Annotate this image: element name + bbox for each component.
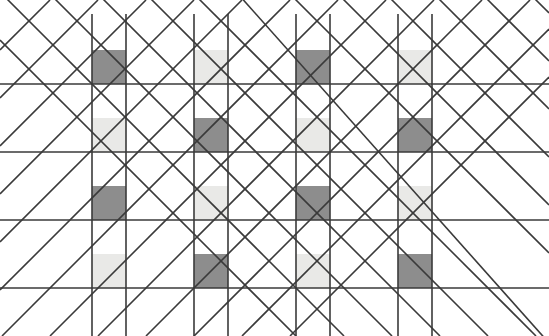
tessellation-figure xyxy=(0,0,549,336)
pattern-square-dark xyxy=(398,118,432,152)
pattern-square-light xyxy=(92,118,126,152)
pattern-square-dark xyxy=(92,50,126,84)
background-rect xyxy=(0,0,549,336)
pattern-square-light xyxy=(92,254,126,288)
pattern-square-light xyxy=(296,254,330,288)
pattern-square-dark xyxy=(296,186,330,220)
pattern-square-dark xyxy=(92,186,126,220)
pattern-square-dark xyxy=(398,254,432,288)
pattern-svg-canvas xyxy=(0,0,549,336)
pattern-square-dark xyxy=(194,118,228,152)
pattern-square-light xyxy=(296,118,330,152)
